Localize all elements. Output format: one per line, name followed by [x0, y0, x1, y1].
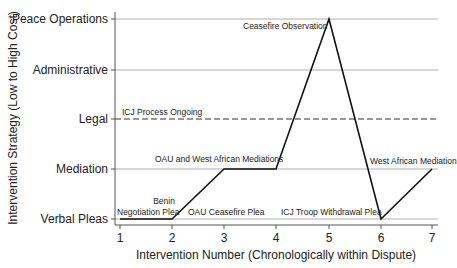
y-label-legal: Legal	[79, 112, 108, 126]
x-tick-3: 3	[221, 231, 228, 245]
annotation-icj-troop-withdrawal-plea: ICJ Troop Withdrawal Plea	[281, 207, 382, 217]
y-axis-title: Intervention Strategy (Low to High Cost)	[6, 11, 20, 224]
annotation-benin: Benin	[153, 196, 175, 206]
annotation-oau-ceasefire-plea: OAU Ceasefire Plea	[188, 207, 265, 217]
y-label-verbal-pleas: Verbal Pleas	[41, 212, 108, 226]
x-tick-6: 6	[378, 231, 385, 245]
annotation-icj-process-ongoing: ICJ Process Ongoing	[122, 107, 203, 117]
annotation-ceasefire-observation: Ceasefire Observation	[243, 21, 328, 31]
x-tick-5: 5	[326, 231, 333, 245]
annotation-oau-west-african-mediations: OAU and West African Mediations	[155, 154, 283, 164]
intervention-strategy-chart: Peace Operations Administrative Legal Me…	[0, 0, 457, 268]
x-tick-1: 1	[117, 231, 124, 245]
y-label-peace-operations: Peace Operations	[12, 12, 108, 26]
y-label-mediation: Mediation	[56, 162, 108, 176]
x-axis-title: Intervention Number (Chronologically wit…	[136, 248, 416, 262]
x-tick-4: 4	[273, 231, 280, 245]
x-tick-2: 2	[169, 231, 176, 245]
y-label-administrative: Administrative	[33, 63, 109, 77]
annotation-west-african-mediation: West African Mediation	[370, 156, 457, 166]
x-tick-7: 7	[429, 231, 436, 245]
annotation-negotiation-plea: Negotiation Plea	[117, 207, 180, 217]
